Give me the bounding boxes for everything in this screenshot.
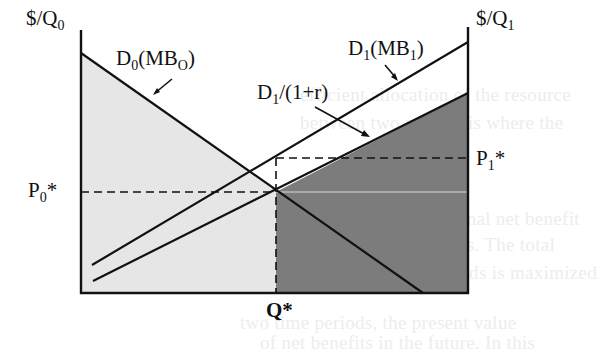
right-axis-label-sub: 1 — [508, 18, 515, 33]
d1-label-base: D — [348, 36, 363, 60]
d1d-label-base: D — [257, 80, 272, 104]
d0-label-base: D — [116, 46, 131, 70]
p1-label-base: P — [476, 146, 488, 170]
p1-star-label: P1* — [476, 148, 505, 173]
region-period1-dark — [276, 93, 468, 293]
left-axis-label-base: $/Q — [26, 6, 58, 30]
d1-label-paren-sub: 1 — [410, 48, 417, 63]
d1-label-close: ) — [417, 36, 424, 60]
p0-label-star: * — [47, 178, 58, 202]
q-star-label: Q* — [266, 300, 293, 321]
d1-discounted-arrowhead-icon — [361, 130, 370, 137]
d0-label-paren-sub: O — [178, 58, 188, 73]
d0-label-paren: (MB — [138, 46, 178, 70]
d1-label-paren: (MB — [370, 36, 410, 60]
p1-label-star: * — [495, 146, 506, 170]
d0-label-close: ) — [188, 46, 195, 70]
d1-curve-label: D1(MB1) — [348, 38, 424, 63]
d1-discounted-label-arrow-icon — [315, 107, 366, 135]
p0-star-label: P0* — [28, 180, 57, 205]
p0-label-sub: 0 — [40, 190, 47, 205]
left-axis-label: $/Q0 — [26, 8, 65, 33]
right-axis-label-base: $/Q — [476, 6, 508, 30]
right-axis-label: $/Q1 — [476, 8, 515, 33]
left-axis-label-sub: 0 — [58, 18, 65, 33]
p0-label-base: P — [28, 178, 40, 202]
p1-label-sub: 1 — [488, 158, 495, 173]
d1d-label-rest: /(1+r) — [279, 80, 328, 104]
d1-discounted-curve-label: D1/(1+r) — [257, 82, 328, 107]
d0-curve-label: D0(MBO) — [116, 48, 195, 73]
